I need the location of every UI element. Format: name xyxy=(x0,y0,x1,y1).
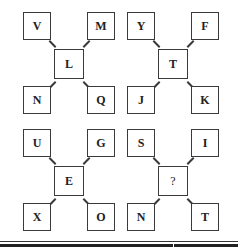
box-top-right: F xyxy=(191,12,219,40)
box-bottom-right: K xyxy=(191,86,219,114)
box-bottom-left: N xyxy=(23,86,51,114)
box-center: L xyxy=(54,49,84,79)
divider-line-thick xyxy=(0,244,238,247)
figure-1: V M L N Q xyxy=(23,12,133,122)
box-top-right: I xyxy=(191,129,219,157)
box-top-left: Y xyxy=(127,12,155,40)
connector xyxy=(153,40,161,48)
box-bottom-left: X xyxy=(23,203,51,231)
connector xyxy=(49,40,57,48)
box-bottom-right: T xyxy=(191,203,219,231)
box-bottom-right: Q xyxy=(87,86,115,114)
connector xyxy=(187,40,195,48)
box-top-left: S xyxy=(127,129,155,157)
connector xyxy=(83,157,91,165)
box-bottom-right: O xyxy=(87,203,115,231)
box-center-unknown: ? xyxy=(158,166,188,196)
figure-2: Y F T J K xyxy=(127,12,237,122)
box-top-right: G xyxy=(87,129,115,157)
box-bottom-left: N xyxy=(127,203,155,231)
divider-gap xyxy=(173,244,174,247)
connector xyxy=(187,157,195,165)
box-top-right: M xyxy=(87,12,115,40)
figure-4: S I ? N T xyxy=(127,129,237,239)
connector xyxy=(83,40,91,48)
box-center: T xyxy=(158,49,188,79)
box-center: E xyxy=(54,166,84,196)
box-top-left: V xyxy=(23,12,51,40)
figure-3: U G E X O xyxy=(23,129,133,239)
connector xyxy=(49,157,57,165)
box-bottom-left: J xyxy=(127,86,155,114)
connector xyxy=(153,157,161,165)
box-top-left: U xyxy=(23,129,51,157)
divider-line xyxy=(0,241,238,242)
